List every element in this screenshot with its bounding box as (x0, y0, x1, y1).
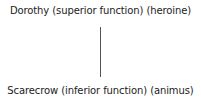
node-scarecrow: Scarecrow (inferior function) (animus) (0, 85, 201, 97)
connector-line (100, 27, 101, 77)
node-dorothy: Dorothy (superior function) (heroine) (0, 5, 201, 17)
